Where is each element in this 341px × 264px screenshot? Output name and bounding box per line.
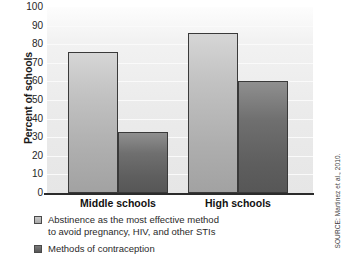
bar-middle-schools-contraception: [118, 132, 168, 193]
x-tick-label-high-schools: High schools: [188, 197, 288, 209]
y-tick-label: 0: [12, 188, 43, 198]
plot-area: [47, 7, 313, 193]
bar-group: [47, 7, 313, 193]
y-tick-label: 10: [12, 169, 43, 179]
y-tick-label: 20: [12, 151, 43, 161]
legend-item-abstinence: Abstinence as the most effective method …: [34, 214, 304, 237]
legend-item-contraception: Methods of contraception: [34, 243, 304, 255]
y-tick-label: 90: [12, 21, 43, 31]
bar-high-schools-abstinence: [188, 33, 238, 193]
y-tick-label: 40: [12, 114, 43, 124]
y-tick-label: 100: [12, 2, 43, 12]
bar-middle-schools-abstinence: [68, 52, 118, 193]
source-note: SOURCE: Martinez et al., 2010.: [334, 99, 341, 249]
x-tick-label-middle-schools: Middle schools: [68, 197, 168, 209]
y-tick-label: 60: [12, 76, 43, 86]
y-tick-label: 80: [12, 39, 43, 49]
legend-swatch-icon: [34, 216, 42, 224]
x-axis-line: [44, 193, 314, 195]
y-tick-label: 50: [12, 95, 43, 105]
chart-legend: Abstinence as the most effective method …: [34, 214, 304, 261]
y-tick-label: 30: [12, 132, 43, 142]
legend-item-label: Methods of contraception: [48, 243, 155, 255]
legend-swatch-icon: [34, 245, 42, 253]
bar-high-schools-contraception: [238, 81, 288, 193]
y-axis-tick-labels: 100 90 80 70 60 50 40 30 20 10 0: [12, 0, 43, 200]
y-tick-label: 70: [12, 58, 43, 68]
legend-item-label: Abstinence as the most effective method …: [48, 214, 219, 237]
